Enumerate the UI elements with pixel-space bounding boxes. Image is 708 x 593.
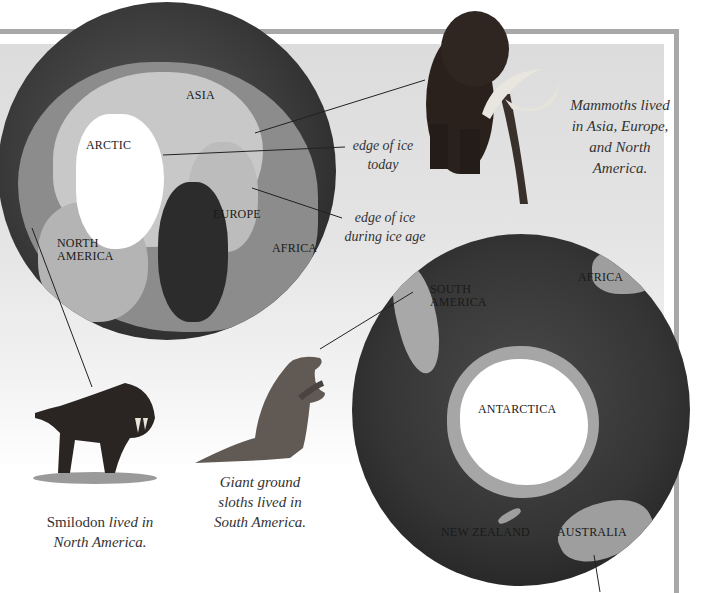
label-north-america: NORTH AMERICA [57, 237, 127, 263]
label-europe: EUROPE [213, 208, 261, 221]
label-new-zealand: NEW ZEALAND [441, 526, 530, 539]
smilodon-illustration [30, 378, 160, 488]
atlantic-ocean [158, 182, 228, 322]
northern-hemisphere-globe [0, 2, 336, 340]
label-africa-north: AFRICA [272, 242, 317, 255]
mammoth-illustration [420, 4, 570, 209]
sloth-caption: Giant ground sloths lived in South Ameri… [210, 472, 310, 532]
annotation-edge-today: edge of ice today [343, 136, 423, 174]
label-africa-south: AFRICA [578, 271, 623, 284]
label-australia: AUSTRALIA [557, 526, 627, 539]
south-america-land [383, 261, 450, 378]
label-arctic: ARCTIC [86, 139, 131, 152]
smilodon-name: Smilodon [47, 514, 105, 530]
annotation-edge-ice-age: edge of ice during ice age [340, 208, 430, 246]
label-antarctica: ANTARCTICA [478, 403, 556, 416]
sloth-illustration [195, 348, 335, 466]
mammoth-caption: Mammoths lived in Asia, Europe, and Nort… [570, 95, 670, 179]
smilodon-caption: Smilodon lived in North America. [40, 512, 160, 552]
frame-right-border [674, 29, 679, 593]
new-zealand-land [497, 506, 523, 525]
label-asia: ASIA [186, 89, 215, 102]
label-south-america: SOUTH AMERICA [430, 283, 500, 309]
